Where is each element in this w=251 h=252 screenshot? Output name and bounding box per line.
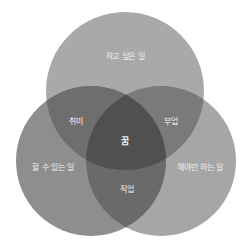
label-can-do: 할 수 있는 일 bbox=[32, 164, 73, 172]
label-occupation: 직업 bbox=[120, 186, 134, 194]
label-hobby: 취미 bbox=[69, 118, 83, 126]
venn-diagram bbox=[0, 0, 251, 252]
label-want-to-do: 하고 싶은 일 bbox=[106, 53, 145, 61]
label-must-do: 해야만 하는 일 bbox=[177, 164, 223, 172]
label-dream: 꿈 bbox=[121, 137, 129, 146]
label-side-job: 부업 bbox=[164, 118, 178, 126]
